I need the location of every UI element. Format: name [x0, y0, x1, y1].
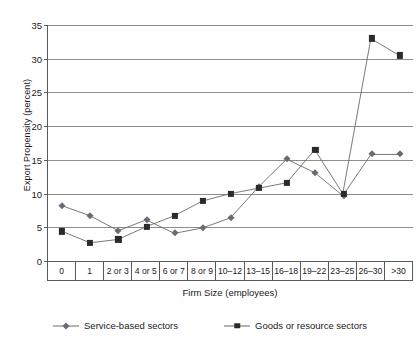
data-point-marker	[115, 236, 121, 242]
data-point-marker	[341, 190, 347, 196]
square-marker-icon	[224, 321, 250, 331]
x-category-cell: 1	[76, 262, 104, 280]
data-point-marker	[200, 198, 206, 204]
data-point-marker	[172, 213, 178, 219]
data-point-marker	[171, 230, 179, 238]
x-category-cell: 10–12	[216, 262, 244, 280]
y-tick-label: 30	[2, 53, 42, 64]
data-point-marker	[87, 240, 93, 246]
y-tick-label: 10	[2, 188, 42, 199]
chart-legend: Service-based sectorsGoods or resource s…	[0, 320, 420, 331]
data-point-marker	[228, 190, 234, 196]
data-point-marker	[143, 224, 149, 230]
x-category-cell: 0	[48, 262, 76, 280]
x-category-cell: 2 or 3	[104, 262, 132, 280]
data-point-marker	[86, 212, 94, 220]
y-tick-label: 15	[2, 154, 42, 165]
data-point-marker	[143, 216, 151, 224]
plot-area	[47, 25, 413, 261]
data-point-marker	[256, 185, 262, 191]
x-category-cell: 16–18	[273, 262, 301, 280]
x-axis-categories: 012 or 34 or 56 or 78 or 910–1213–1516–1…	[47, 261, 413, 281]
x-category-cell: 23–25	[329, 262, 357, 280]
legend-label: Goods or resource sectors	[255, 320, 367, 331]
y-tick-label: 0	[2, 256, 42, 267]
data-point-marker	[312, 169, 320, 177]
data-point-marker	[115, 227, 123, 235]
y-tick-label: 35	[2, 20, 42, 31]
legend-entry: Goods or resource sectors	[224, 320, 367, 331]
data-point-marker	[227, 214, 235, 222]
x-category-cell: 19–22	[301, 262, 329, 280]
y-tick-label: 20	[2, 121, 42, 132]
x-axis-title: Firm Size (employees)	[47, 287, 413, 298]
data-point-marker	[397, 52, 403, 58]
data-point-marker	[369, 35, 375, 41]
series-markers	[48, 25, 413, 261]
data-point-marker	[368, 151, 376, 159]
diamond-marker-icon	[53, 321, 79, 331]
x-category-cell: 4 or 5	[132, 262, 160, 280]
x-category-cell: 6 or 7	[160, 262, 188, 280]
y-tick-label: 25	[2, 87, 42, 98]
data-point-marker	[284, 180, 290, 186]
data-point-marker	[58, 202, 66, 210]
export-propensity-chart: Export Propensity (percent) 051015202530…	[0, 0, 420, 343]
data-point-marker	[312, 147, 318, 153]
data-point-marker	[59, 228, 65, 234]
data-point-marker	[283, 155, 291, 163]
data-point-marker	[199, 224, 207, 232]
x-category-cell: 13–15	[245, 262, 273, 280]
legend-label: Service-based sectors	[84, 320, 178, 331]
x-category-cell: 26–30	[357, 262, 385, 280]
y-tick-label: 5	[2, 222, 42, 233]
data-point-marker	[396, 151, 404, 159]
y-axis-tick-labels: 05101520253035	[0, 25, 42, 261]
legend-entry: Service-based sectors	[53, 320, 178, 331]
x-category-cell: 8 or 9	[188, 262, 216, 280]
x-category-cell: >30	[385, 262, 412, 280]
